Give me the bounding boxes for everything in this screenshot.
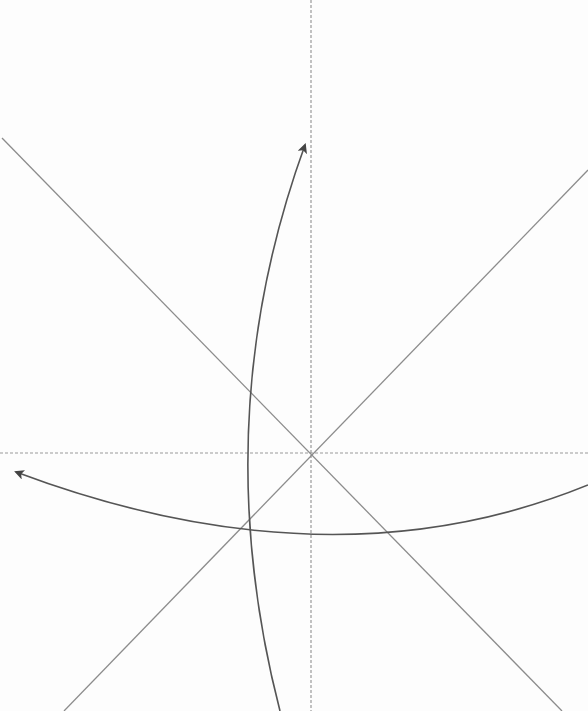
horizontal-curved-arrow	[16, 472, 588, 534]
vertical-curved-arrow	[248, 145, 305, 711]
diagonal-line-ascending	[64, 170, 588, 711]
diagonal-line-descending	[2, 138, 562, 711]
diagram-canvas	[0, 0, 588, 711]
diagram-svg	[0, 0, 588, 711]
